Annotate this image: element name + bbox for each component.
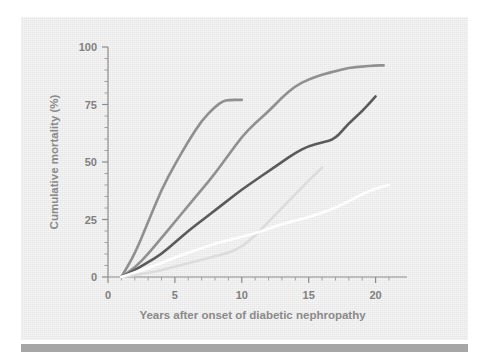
x-tick-label: 15 [303,289,315,301]
x-tick-label: 20 [369,289,381,301]
x-tick-label: 10 [236,289,248,301]
series-line-fifth-cohort [121,185,389,277]
series-line-third-cohort [121,96,375,277]
y-tick-label: 50 [85,156,97,168]
y-tick-label: 25 [85,214,97,226]
mortality-line-chart: 025507510005101520Years after onset of d… [0,0,487,364]
series-group [121,65,389,277]
x-tick-label: 5 [172,289,178,301]
figure-container: 025507510005101520Years after onset of d… [0,0,487,364]
y-tick-label: 100 [79,41,97,53]
y-axis-title: Cumulative mortality (%) [48,94,60,229]
axes-group [102,47,407,283]
y-tick-label: 0 [91,271,97,283]
y-tick-label: 75 [85,99,97,111]
x-tick-label: 0 [105,289,111,301]
series-line-steepest-cohort [121,100,241,277]
x-axis-title: Years after onset of diabetic nephropath… [139,309,366,321]
series-line-second-cohort [121,65,383,277]
bottom-rule [21,344,468,352]
